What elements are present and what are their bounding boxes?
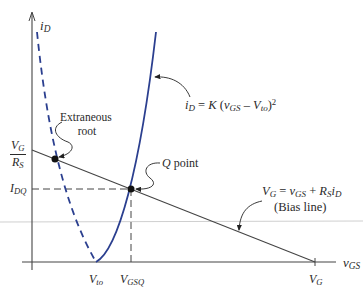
vto-label: Vto xyxy=(89,273,103,287)
artifact-line xyxy=(0,221,363,222)
q-point-arrow-icon xyxy=(136,163,160,189)
parabola-solid-branch xyxy=(96,32,156,262)
vgsq-label: VGSQ xyxy=(120,273,144,287)
extraneous-root-point xyxy=(52,156,59,163)
bias-line-caption: (Bias line) xyxy=(274,201,326,214)
diagram-canvas xyxy=(0,0,363,296)
extraneous-root-label: Extraneous root xyxy=(60,110,108,138)
mosfet-bias-diagram: iD vGS VG RS IDQ Vto VGSQ VG Extraneous … xyxy=(0,0,363,296)
bias-equation: VG = vGS + RSiD xyxy=(262,185,341,199)
vg-over-rs-label: VG RS xyxy=(10,139,26,170)
vg-label: VG xyxy=(309,273,323,287)
idq-label: IDQ xyxy=(10,182,26,196)
y-axis-label: iD xyxy=(40,19,50,35)
q-point xyxy=(128,186,135,193)
q-point-label: Q point xyxy=(162,157,198,169)
bias-line-arrow-icon xyxy=(239,201,262,230)
parabola-dashed-branch xyxy=(37,32,96,262)
x-axis-label: vGS xyxy=(343,256,360,272)
parabola-equation: iD = K (vGS – Vto)2 xyxy=(185,98,276,113)
parabola-label-arrow-icon xyxy=(155,77,190,97)
